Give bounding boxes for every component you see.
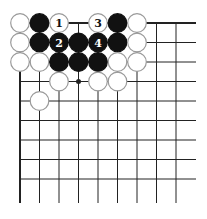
- black-stone: [50, 53, 69, 72]
- black-stone: [108, 14, 127, 33]
- white-stone: 1: [50, 14, 69, 33]
- white-stone: [11, 33, 30, 52]
- black-stone: [89, 53, 108, 72]
- white-stone: [11, 14, 30, 33]
- white-stone: [11, 53, 30, 72]
- white-stone: [108, 72, 127, 91]
- move-number: 4: [94, 37, 102, 50]
- board-grid: [20, 23, 196, 203]
- black-stone: 4: [89, 33, 108, 52]
- black-stone: [69, 53, 88, 72]
- move-number: 1: [55, 17, 63, 30]
- white-stone: [128, 53, 147, 72]
- star-points: [76, 79, 81, 84]
- white-stone: 3: [89, 14, 108, 33]
- white-stone: [50, 72, 69, 91]
- white-stone: [128, 14, 147, 33]
- white-stone: [108, 53, 127, 72]
- white-stone: [128, 33, 147, 52]
- black-stone: [30, 14, 49, 33]
- move-number: 3: [94, 17, 102, 30]
- move-number: 2: [55, 37, 63, 50]
- star-point: [76, 79, 81, 84]
- black-stone: [69, 33, 88, 52]
- go-board: 1324: [0, 0, 207, 219]
- white-stone: [30, 92, 49, 111]
- black-stone: [30, 33, 49, 52]
- black-stone: [108, 33, 127, 52]
- white-stone: [30, 53, 49, 72]
- white-stone: [89, 72, 108, 91]
- black-stone: 2: [50, 33, 69, 52]
